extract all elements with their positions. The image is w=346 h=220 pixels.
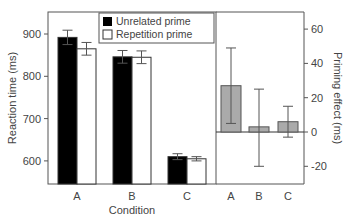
- x-tick-label: C: [183, 190, 191, 202]
- y-tick-label: 900: [23, 28, 41, 40]
- y-tick-label: 0: [311, 126, 317, 138]
- legend-label: Unrelated prime: [116, 15, 191, 27]
- bar: [187, 159, 206, 184]
- y-tick-label: 40: [311, 57, 323, 69]
- bar: [168, 157, 187, 184]
- x-tick-label: A: [227, 190, 235, 202]
- y-tick-label: 600: [23, 155, 41, 167]
- bar: [58, 37, 77, 184]
- x-tick-label: B: [255, 190, 262, 202]
- chart-svg: 900800700600ABCConditionReaction time (m…: [0, 0, 346, 220]
- bar: [113, 57, 132, 184]
- y-tick-label: 700: [23, 113, 41, 125]
- x-tick-label: A: [73, 190, 81, 202]
- chart-figure: 900800700600ABCConditionReaction time (m…: [0, 0, 346, 220]
- y-tick-label: 800: [23, 70, 41, 82]
- x-tick-label: B: [128, 190, 135, 202]
- legend-swatch-unrelated: [103, 17, 112, 26]
- bar: [132, 57, 151, 184]
- legend-label: Repetition prime: [116, 28, 193, 40]
- y-axis-label-right: Priming effect (ms): [332, 52, 344, 144]
- x-tick-label: C: [284, 190, 292, 202]
- legend-swatch-repetition: [103, 30, 112, 39]
- y-axis-label-left: Reaction time (ms): [6, 52, 18, 144]
- y-tick-label: 60: [311, 23, 323, 35]
- y-tick-label: 20: [311, 92, 323, 104]
- y-tick-label: -20: [311, 160, 327, 172]
- bar: [77, 49, 96, 184]
- x-axis-label: Condition: [109, 204, 155, 216]
